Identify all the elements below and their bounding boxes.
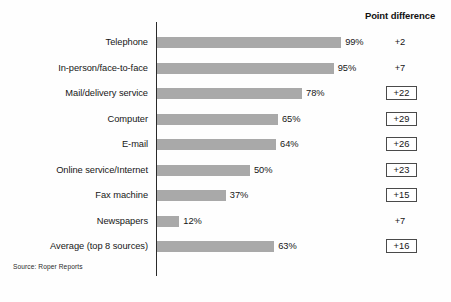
bar: [157, 241, 274, 252]
bar: [157, 165, 250, 176]
bar-row-label: In-person/face-to-face: [0, 62, 148, 75]
bar-row: Newspapers12%+7: [0, 216, 451, 228]
point-difference-boxed-value: +23: [386, 163, 417, 177]
point-difference-boxed-value: +15: [386, 188, 417, 202]
point-difference-value: +2: [380, 35, 420, 49]
bar: [157, 88, 302, 99]
bar: [157, 139, 276, 150]
bar-row: Telephone99%+2: [0, 37, 451, 49]
bar-value-label: 12%: [183, 215, 201, 228]
bar-row-label: E-mail: [0, 138, 148, 151]
point-difference-value: +7: [380, 214, 420, 228]
bar-value-label: 64%: [280, 138, 298, 151]
bar-row: In-person/face-to-face95%+7: [0, 63, 451, 75]
bar-chart-figure: Point difference Telephone99%+2In-person…: [0, 0, 451, 302]
source-note: Source: Roper Reports: [13, 263, 83, 270]
bar-row-label: Mail/delivery service: [0, 87, 148, 100]
bar-row: Fax machine37%+15: [0, 190, 451, 202]
bar-value-label: 95%: [338, 62, 356, 75]
point-difference-boxed-value: +29: [386, 112, 417, 126]
bar: [157, 190, 226, 201]
bar-value-label: 78%: [306, 87, 324, 100]
bar-row: Computer65%+29: [0, 114, 451, 126]
bar-value-label: 99%: [345, 36, 363, 49]
bar-row-label: Telephone: [0, 36, 148, 49]
bar-row-label: Average (top 8 sources): [0, 240, 148, 253]
bar-row: E-mail64%+26: [0, 139, 451, 151]
plot-area: Telephone99%+2In-person/face-to-face95%+…: [0, 0, 451, 302]
bar-row-label: Newspapers: [0, 215, 148, 228]
bar-row-label: Online service/Internet: [0, 164, 148, 177]
bar-row: Mail/delivery service78%+22: [0, 88, 451, 100]
bar-value-label: 63%: [278, 240, 296, 253]
bar-row: Average (top 8 sources)63%+16: [0, 241, 451, 253]
point-difference-boxed-value: +26: [386, 137, 417, 151]
bar: [157, 216, 179, 227]
bar-value-label: 37%: [230, 189, 248, 202]
bar: [157, 114, 278, 125]
point-difference-value: +7: [380, 61, 420, 75]
bar: [157, 37, 341, 48]
bar-row-label: Computer: [0, 113, 148, 126]
point-difference-boxed-value: +16: [386, 239, 417, 253]
bar-value-label: 50%: [254, 164, 272, 177]
bar-row-label: Fax machine: [0, 189, 148, 202]
bar: [157, 63, 334, 74]
bar-row: Online service/Internet50%+23: [0, 165, 451, 177]
bar-value-label: 65%: [282, 113, 300, 126]
point-difference-boxed-value: +22: [386, 86, 417, 100]
